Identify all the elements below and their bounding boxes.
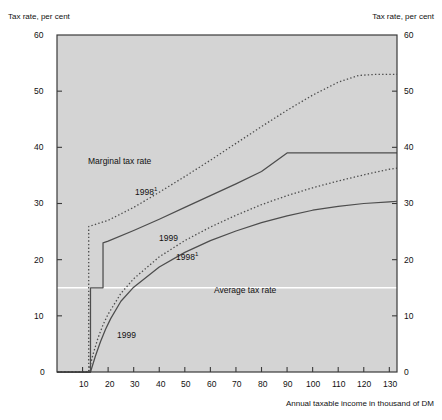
- annotation-average-1999: 1999: [117, 331, 136, 340]
- plot-background: [57, 35, 397, 372]
- annotation-marginal-tax-rate: Marginal tax rate: [88, 157, 151, 166]
- annotation-marginal-1998-text: 1998: [135, 187, 154, 197]
- annotation-marginal-1998-footnote: 1: [154, 186, 157, 192]
- annotation-average-1998-footnote: 1: [195, 251, 198, 257]
- plot-area: [0, 0, 442, 420]
- annotation-average-1998-text: 1998: [176, 252, 195, 262]
- annotation-average-1998: 19981: [176, 251, 198, 261]
- chart-figure: Tax rate, per cent Tax rate, per cent An…: [0, 0, 442, 420]
- annotation-average-tax-rate: Average tax rate: [214, 286, 276, 295]
- annotation-marginal-1999: 1999: [159, 234, 178, 243]
- annotation-marginal-1998: 19981: [135, 186, 157, 196]
